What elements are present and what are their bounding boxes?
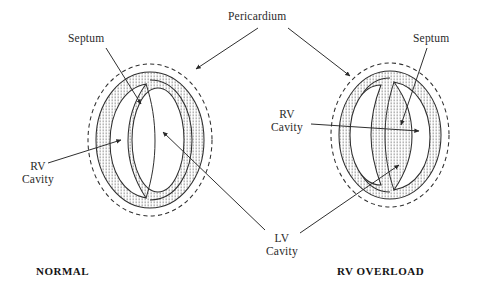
lv-cavity-normal <box>132 88 184 192</box>
label-pericardium: Pericardium <box>228 10 286 23</box>
label-lv-cavity: LV Cavity <box>266 232 298 258</box>
caption-rv-overload: RV OVERLOAD <box>337 265 424 278</box>
label-septum-right: Septum <box>413 32 449 45</box>
label-septum-left: Septum <box>68 32 104 45</box>
label-rv-cavity-right: RV Cavity <box>271 108 303 134</box>
caption-normal: NORMAL <box>36 265 89 278</box>
label-rv-cavity-left: RV Cavity <box>22 160 54 186</box>
